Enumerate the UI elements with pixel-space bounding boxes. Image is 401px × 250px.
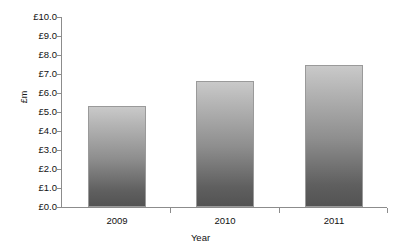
bar-2009[interactable] xyxy=(88,106,146,207)
bar-chart: £m £10.0 £9.0 £8.0 £7.0 £6.0 £5.0 £4.0 £… xyxy=(0,0,401,250)
x-tick-label-2011: 2011 xyxy=(304,215,364,227)
x-tick-label-2010: 2010 xyxy=(195,215,255,227)
bar-2010[interactable] xyxy=(196,81,254,207)
bars-layer xyxy=(0,0,401,250)
x-tick-label-2009: 2009 xyxy=(87,215,147,227)
x-axis-title: Year xyxy=(0,232,401,244)
bar-2011[interactable] xyxy=(305,65,363,208)
